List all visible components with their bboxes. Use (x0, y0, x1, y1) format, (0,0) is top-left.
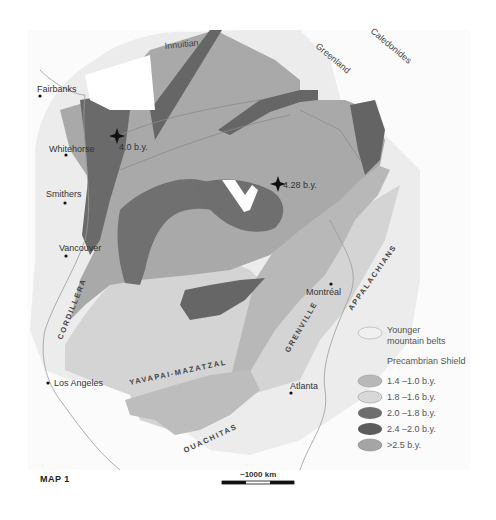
svg-text:1.8 –1.6 b.y.: 1.8 –1.6 b.y. (387, 392, 436, 402)
svg-text:~1000 km: ~1000 km (240, 470, 276, 479)
svg-text:4.28 b.y.: 4.28 b.y. (283, 180, 317, 190)
legend-swatch-2 (358, 391, 382, 403)
svg-text:4.0 b.y.: 4.0 b.y. (119, 142, 148, 152)
map-label: MAP 1 (40, 474, 70, 484)
svg-text:2.4 –2.0 b.y.: 2.4 –2.0 b.y. (387, 424, 436, 434)
scale-bar: ~1000 km (222, 470, 294, 484)
svg-text:Whitehorse: Whitehorse (49, 144, 95, 154)
city-los-angeles: Los Angeles (46, 378, 103, 388)
geologic-map: 4.0 b.y. 4.28 b.y. Fairbanks Whitehorse … (0, 0, 496, 520)
svg-text:Younger: Younger (387, 325, 420, 335)
legend-swatch-5 (358, 439, 382, 451)
svg-text:Smithers: Smithers (46, 189, 82, 199)
svg-text:Montréal: Montréal (306, 287, 341, 297)
svg-text:Fairbanks: Fairbanks (37, 84, 77, 94)
legend-swatch-younger (358, 327, 382, 339)
svg-text:Los Angeles: Los Angeles (54, 378, 104, 388)
svg-text:Precambrian Shield: Precambrian Shield (387, 356, 466, 366)
svg-text:2.0 –1.8 b.y.: 2.0 –1.8 b.y. (387, 408, 436, 418)
svg-text:Vancouver: Vancouver (59, 243, 101, 253)
svg-text:>2.5 b.y.: >2.5 b.y. (387, 440, 421, 450)
svg-text:Atlanta: Atlanta (290, 381, 318, 391)
legend-swatch-3 (358, 407, 382, 419)
legend-swatch-1 (358, 375, 382, 387)
svg-text:mountain belts: mountain belts (387, 336, 446, 346)
svg-text:1.4 –1.0 b.y.: 1.4 –1.0 b.y. (387, 376, 436, 386)
legend-swatch-4 (358, 423, 382, 435)
